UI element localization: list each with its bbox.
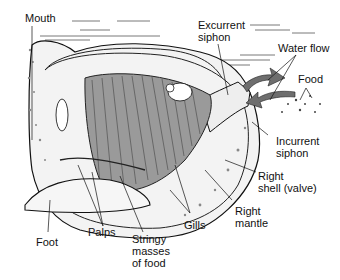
label-water-flow: Water flow xyxy=(278,42,330,54)
label-stringy-masses: Stringy masses of food xyxy=(132,233,170,269)
label-right-shell: Right shell (valve) xyxy=(258,170,317,194)
label-gills: Gills xyxy=(184,219,205,231)
label-right-mantle: Right mantle xyxy=(235,205,268,229)
label-excurrent-siphon: Excurrent siphon xyxy=(198,19,245,43)
label-foot: Foot xyxy=(36,236,58,248)
water-flow-arrow-out xyxy=(243,68,285,92)
label-incurrent-siphon: Incurrent siphon xyxy=(276,135,319,159)
label-mouth: Mouth xyxy=(25,12,56,24)
left-organ xyxy=(56,99,68,131)
label-food: Food xyxy=(298,73,323,85)
organ-lobe-small xyxy=(166,84,174,92)
label-palps: Palps xyxy=(88,226,116,238)
